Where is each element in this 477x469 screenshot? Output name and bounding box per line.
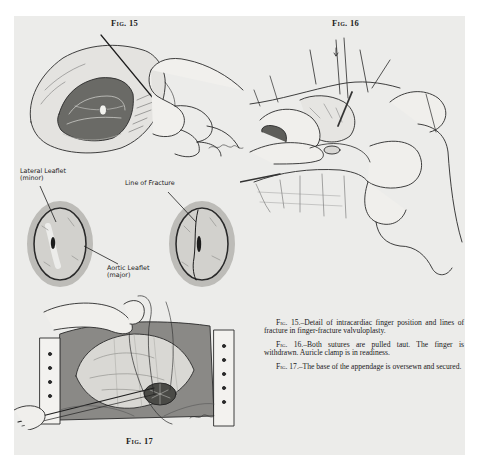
fig17-heading: Fig. 17: [126, 436, 153, 446]
aortic-leaflet-label: Aortic Leaflet (major): [107, 265, 149, 280]
caption-fig17: Fig. 17.–The base of the appendage is ov…: [264, 363, 464, 371]
line-of-fracture-label-text: Line of Fracture: [125, 180, 175, 187]
caption-fig17-text: –The base of the appendage is oversewn a…: [299, 362, 462, 371]
line-of-fracture-label: Line of Fracture: [125, 180, 175, 187]
fig17-illustration: [14, 290, 250, 430]
fig17-heading-number: 17: [144, 436, 153, 446]
lateral-leaflet-label: Lateral Leaflet (minor): [20, 168, 66, 183]
caption-fig17-ref: Fig. 17.: [276, 362, 299, 371]
caption-fig16: Fig. 16.–Both sutures are pulled taut. T…: [264, 341, 464, 358]
figure-captions: Fig. 15.–Detail of intracardiac finger p…: [264, 319, 464, 376]
lateral-leaflet-label-line2: (minor): [20, 175, 66, 182]
fig17-heading-prefix: Fig.: [126, 436, 142, 446]
caption-fig15: Fig. 15.–Detail of intracardiac finger p…: [264, 319, 464, 336]
aortic-leaflet-label-line2: (major): [107, 272, 149, 279]
